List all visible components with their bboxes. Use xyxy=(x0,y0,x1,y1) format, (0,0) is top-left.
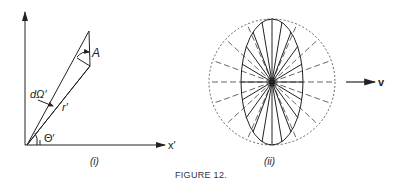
radius-line-r xyxy=(27,66,90,145)
figure-canvas xyxy=(0,0,402,188)
label-theta: Θ′ xyxy=(44,133,55,144)
label-A: A xyxy=(92,47,100,59)
area-side xyxy=(89,31,90,66)
panel-ii-label: (ii) xyxy=(264,157,275,167)
panel-i-diagram xyxy=(25,12,165,145)
panel-i-label: (i) xyxy=(90,157,99,167)
figure-caption: FIGURE 12. xyxy=(0,170,402,180)
area-face-A xyxy=(77,58,90,66)
label-x-axis: x′ xyxy=(168,140,176,151)
label-r: r′ xyxy=(62,102,68,113)
label-d-omega: dΩ′ xyxy=(30,89,47,100)
center-point xyxy=(269,79,275,85)
panel-ii-diagram xyxy=(209,19,375,145)
label-velocity: v xyxy=(378,77,384,88)
area-arrow xyxy=(77,52,89,57)
